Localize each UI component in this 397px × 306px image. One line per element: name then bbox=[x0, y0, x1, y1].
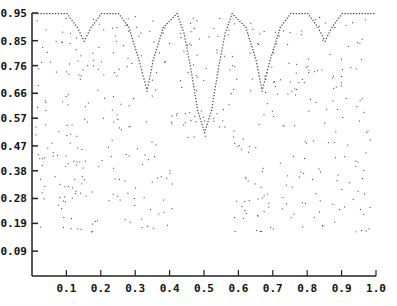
data-point bbox=[156, 49, 157, 50]
data-point bbox=[135, 16, 136, 17]
data-point bbox=[208, 118, 209, 119]
data-point bbox=[239, 145, 240, 146]
data-point bbox=[75, 25, 76, 26]
data-point bbox=[68, 94, 69, 95]
y-tick-label: 0.09 bbox=[1, 245, 28, 258]
data-point bbox=[237, 19, 238, 20]
data-point bbox=[69, 63, 70, 64]
data-point bbox=[296, 64, 297, 65]
data-point bbox=[88, 103, 89, 104]
data-point bbox=[316, 102, 317, 103]
data-point bbox=[153, 57, 154, 58]
data-point bbox=[153, 228, 154, 229]
data-point bbox=[85, 161, 86, 162]
data-point bbox=[67, 104, 68, 105]
data-point bbox=[111, 156, 112, 157]
data-point bbox=[259, 75, 260, 76]
data-point bbox=[275, 32, 276, 33]
data-point bbox=[93, 65, 94, 66]
data-point bbox=[322, 40, 323, 41]
data-point bbox=[316, 25, 317, 26]
data-point bbox=[43, 13, 44, 14]
data-point bbox=[115, 179, 116, 180]
data-point bbox=[181, 87, 182, 88]
data-point bbox=[319, 211, 320, 212]
data-point bbox=[263, 114, 264, 115]
data-point bbox=[53, 152, 54, 153]
data-point bbox=[128, 31, 129, 32]
data-point bbox=[187, 50, 188, 51]
x-tick-label: 0.3 bbox=[125, 282, 145, 295]
data-point bbox=[152, 96, 153, 97]
data-point bbox=[37, 107, 38, 108]
data-point bbox=[78, 30, 79, 31]
data-point bbox=[193, 83, 194, 84]
data-point bbox=[248, 35, 249, 36]
data-point bbox=[363, 170, 364, 171]
data-point bbox=[275, 86, 276, 87]
data-point bbox=[130, 32, 131, 33]
data-point bbox=[280, 27, 281, 28]
data-point bbox=[38, 154, 39, 155]
data-point bbox=[265, 76, 266, 77]
data-point bbox=[92, 25, 93, 26]
data-point bbox=[45, 110, 46, 111]
data-point bbox=[129, 105, 130, 106]
data-point bbox=[216, 50, 217, 51]
data-point bbox=[255, 147, 256, 148]
data-point bbox=[63, 227, 64, 228]
data-point bbox=[171, 208, 172, 209]
data-point bbox=[362, 13, 363, 14]
data-point bbox=[335, 22, 336, 23]
data-point bbox=[322, 35, 323, 36]
data-point bbox=[232, 13, 233, 14]
data-point bbox=[61, 41, 62, 42]
data-point bbox=[308, 59, 309, 60]
data-point bbox=[62, 101, 63, 102]
data-point bbox=[144, 197, 145, 198]
data-point bbox=[82, 38, 83, 39]
data-point bbox=[307, 66, 308, 67]
data-point bbox=[45, 102, 46, 103]
data-point bbox=[148, 81, 149, 82]
data-point bbox=[336, 20, 337, 21]
data-point bbox=[132, 38, 133, 39]
data-point bbox=[329, 32, 330, 33]
data-point bbox=[53, 156, 54, 157]
data-point bbox=[70, 143, 71, 144]
data-point bbox=[133, 41, 134, 42]
data-point bbox=[123, 45, 124, 46]
data-point bbox=[92, 224, 93, 225]
data-point bbox=[201, 121, 202, 122]
data-point bbox=[77, 228, 78, 229]
data-point bbox=[192, 80, 193, 81]
data-point bbox=[187, 45, 188, 46]
data-point bbox=[183, 32, 184, 33]
data-point bbox=[50, 62, 51, 63]
data-point bbox=[84, 179, 85, 180]
data-point bbox=[72, 198, 73, 199]
data-point bbox=[287, 44, 288, 45]
data-point bbox=[191, 45, 192, 46]
data-point bbox=[176, 13, 177, 14]
data-point bbox=[334, 27, 335, 28]
data-point bbox=[212, 101, 213, 102]
data-point bbox=[127, 24, 128, 25]
data-point bbox=[293, 156, 294, 157]
data-point bbox=[290, 81, 291, 82]
data-point bbox=[215, 83, 216, 84]
data-point bbox=[52, 13, 53, 14]
data-point bbox=[66, 13, 67, 14]
data-point bbox=[241, 23, 242, 24]
data-point bbox=[335, 157, 336, 158]
data-point bbox=[287, 175, 288, 176]
data-point bbox=[356, 231, 357, 232]
data-point bbox=[203, 129, 204, 130]
data-point bbox=[164, 62, 165, 63]
data-point bbox=[225, 32, 226, 33]
data-point bbox=[153, 42, 154, 43]
data-point bbox=[102, 160, 103, 161]
data-point bbox=[365, 152, 366, 153]
data-point bbox=[241, 149, 242, 150]
data-point bbox=[158, 213, 159, 214]
